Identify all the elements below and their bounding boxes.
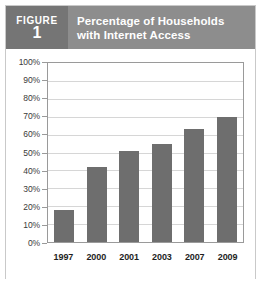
bar-series — [48, 63, 243, 242]
x-axis-label: 2001 — [113, 249, 146, 265]
x-axis-label: 2007 — [178, 249, 211, 265]
figure-number-badge: FIGURE 1 — [6, 6, 68, 49]
x-axis-label: 2003 — [145, 249, 178, 265]
figure-card: FIGURE 1 Percentage of Households with I… — [5, 5, 256, 279]
bar-2009 — [217, 117, 237, 242]
y-axis-label: 30% — [23, 184, 40, 194]
x-axis-labels: 199720002001200320072009 — [47, 249, 244, 265]
y-axis-label: 80% — [23, 93, 40, 103]
bar-slot — [113, 63, 146, 242]
bar-2007 — [184, 129, 204, 242]
y-axis-labels: 100%90%80%70%60%50%40%30%20%10%0% — [6, 62, 42, 243]
bar-slot — [146, 63, 179, 242]
bar-slot — [178, 63, 211, 242]
x-axis-label: 2009 — [211, 249, 244, 265]
y-axis-label: 10% — [23, 220, 40, 230]
x-axis-label: 2000 — [80, 249, 113, 265]
y-axis-label: 100% — [19, 57, 40, 67]
bar-slot — [48, 63, 81, 242]
bar-slot — [211, 63, 244, 242]
chart-body: 100%90%80%70%60%50%40%30%20%10%0% 199720… — [6, 49, 255, 279]
y-axis-label: 40% — [23, 166, 40, 176]
y-axis-tick — [42, 243, 47, 244]
figure-header: FIGURE 1 Percentage of Households with I… — [6, 6, 255, 49]
bar-2000 — [87, 167, 107, 242]
plot-area — [47, 62, 244, 243]
figure-title-line-2: with Internet Access — [77, 28, 255, 42]
bar-slot — [81, 63, 114, 242]
y-axis-label: 90% — [23, 75, 40, 85]
figure-title: Percentage of Households with Internet A… — [68, 6, 255, 49]
y-axis-label: 60% — [23, 129, 40, 139]
bar-2003 — [152, 144, 172, 242]
bar-2001 — [119, 151, 139, 242]
y-axis-label: 70% — [23, 111, 40, 121]
y-axis-label: 20% — [23, 202, 40, 212]
bar-1997 — [54, 210, 74, 242]
y-axis-label: 0% — [28, 238, 40, 248]
figure-badge-number: 1 — [33, 25, 42, 41]
figure-title-line-1: Percentage of Households — [77, 14, 255, 28]
x-axis-label: 1997 — [47, 249, 80, 265]
y-axis-label: 50% — [23, 148, 40, 158]
